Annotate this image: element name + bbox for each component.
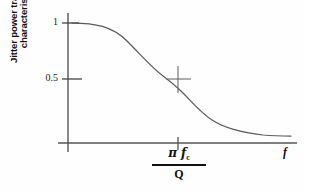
y-tick-label-0.5: 0.5	[26, 72, 58, 83]
fc-subscript: c	[186, 153, 190, 162]
y-tick-label-1: 1	[30, 16, 58, 27]
pi-fc-numerator-text: π f	[168, 146, 186, 160]
fraction-bar	[152, 164, 206, 166]
fraction-numerator: π fc	[152, 147, 206, 163]
x-axis-label: f	[283, 145, 287, 160]
x-tick-label-fraction: π fc Q	[152, 147, 206, 180]
fraction-denominator: Q	[152, 167, 206, 180]
